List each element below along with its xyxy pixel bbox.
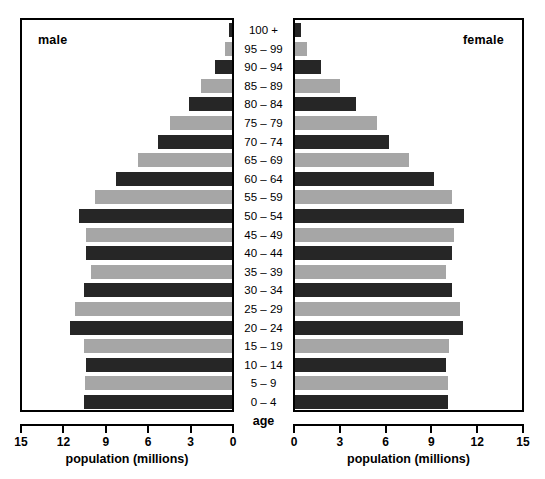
bar-male-40-44 bbox=[86, 246, 232, 260]
bar-female-85-89 bbox=[295, 79, 340, 93]
age-label: 55 – 59 bbox=[234, 190, 293, 204]
bar-female-20-24 bbox=[295, 321, 463, 335]
age-label: 70 – 74 bbox=[234, 135, 293, 149]
bar-male-10-14 bbox=[86, 358, 232, 372]
male-chart-panel bbox=[20, 18, 234, 412]
bar-male-65-69 bbox=[138, 153, 232, 167]
age-label: 65 – 69 bbox=[234, 153, 293, 167]
bar-female-50-54 bbox=[295, 209, 464, 223]
axis-tick bbox=[147, 424, 149, 433]
bar-female-80-84 bbox=[295, 97, 356, 111]
bar-female-0-4 bbox=[295, 395, 448, 409]
bar-female-75-79 bbox=[295, 116, 377, 130]
axis-tick-label: 15 bbox=[516, 435, 529, 449]
bar-male-100 bbox=[229, 23, 232, 37]
female-x-axis: 03691215 bbox=[293, 424, 524, 433]
bar-male-5-9 bbox=[85, 376, 232, 390]
population-pyramid-figure: male female 100 +95 – 9990 – 9485 – 8980… bbox=[0, 0, 545, 479]
bar-female-55-59 bbox=[295, 190, 452, 204]
bar-female-15-19 bbox=[295, 339, 449, 353]
axis-tick bbox=[430, 424, 432, 433]
bar-female-100 bbox=[295, 23, 301, 37]
axis-tick-label: 6 bbox=[382, 435, 389, 449]
male-panel-title: male bbox=[38, 33, 67, 47]
bar-male-45-49 bbox=[86, 228, 232, 242]
bar-male-55-59 bbox=[95, 190, 232, 204]
female-chart-panel bbox=[293, 18, 524, 412]
male-x-axis: 15129630 bbox=[20, 424, 234, 433]
axis-tick-label: 3 bbox=[336, 435, 343, 449]
axis-tick bbox=[105, 424, 107, 433]
bar-male-70-74 bbox=[158, 135, 232, 149]
bar-female-25-29 bbox=[295, 302, 460, 316]
age-label: 80 – 84 bbox=[234, 97, 293, 111]
age-label: 15 – 19 bbox=[234, 339, 293, 353]
male-bars-group bbox=[22, 20, 232, 410]
axis-tick-label: 0 bbox=[230, 435, 237, 449]
age-label: 50 – 54 bbox=[234, 209, 293, 223]
bar-female-60-64 bbox=[295, 172, 434, 186]
axis-tick-label: 6 bbox=[145, 435, 152, 449]
axis-tick bbox=[385, 424, 387, 433]
age-label: 60 – 64 bbox=[234, 172, 293, 186]
bar-female-5-9 bbox=[295, 376, 448, 390]
bar-female-95-99 bbox=[295, 42, 307, 56]
bar-female-90-94 bbox=[295, 60, 321, 74]
male-axis-line bbox=[20, 424, 234, 426]
age-label: 30 – 34 bbox=[234, 283, 293, 297]
age-label: 100 + bbox=[234, 23, 293, 37]
axis-tick bbox=[339, 424, 341, 433]
axis-tick bbox=[62, 424, 64, 433]
bar-female-30-34 bbox=[295, 283, 452, 297]
bar-female-65-69 bbox=[295, 153, 409, 167]
axis-tick bbox=[20, 424, 22, 433]
bar-male-50-54 bbox=[79, 209, 232, 223]
bar-male-80-84 bbox=[189, 97, 232, 111]
age-label-column: 100 +95 – 9990 – 9485 – 8980 – 8475 – 79… bbox=[234, 18, 293, 412]
age-label: 45 – 49 bbox=[234, 228, 293, 242]
bar-male-20-24 bbox=[70, 321, 232, 335]
age-label: 5 – 9 bbox=[234, 376, 293, 390]
axis-tick-label: 0 bbox=[291, 435, 298, 449]
bar-male-60-64 bbox=[116, 172, 232, 186]
bar-male-0-4 bbox=[84, 395, 232, 409]
axis-tick bbox=[190, 424, 192, 433]
bar-male-75-79 bbox=[170, 116, 232, 130]
bar-male-90-94 bbox=[215, 60, 232, 74]
axis-tick bbox=[476, 424, 478, 433]
axis-tick-label: 12 bbox=[57, 435, 70, 449]
bar-female-45-49 bbox=[295, 228, 454, 242]
age-axis-caption: age bbox=[234, 414, 293, 428]
age-label: 25 – 29 bbox=[234, 302, 293, 316]
age-label: 75 – 79 bbox=[234, 116, 293, 130]
bar-male-35-39 bbox=[91, 265, 232, 279]
age-label: 40 – 44 bbox=[234, 246, 293, 260]
axis-tick-label: 15 bbox=[14, 435, 27, 449]
age-label: 10 – 14 bbox=[234, 358, 293, 372]
bar-male-30-34 bbox=[84, 283, 232, 297]
female-panel-title: female bbox=[463, 33, 504, 47]
female-axis-caption: population (millions) bbox=[293, 452, 524, 466]
bar-female-10-14 bbox=[295, 358, 446, 372]
axis-tick bbox=[293, 424, 295, 433]
male-axis-caption: population (millions) bbox=[20, 452, 234, 466]
axis-tick bbox=[522, 424, 524, 433]
bar-female-35-39 bbox=[295, 265, 446, 279]
bar-female-40-44 bbox=[295, 246, 452, 260]
axis-tick-label: 9 bbox=[102, 435, 109, 449]
bar-male-25-29 bbox=[75, 302, 232, 316]
age-label: 35 – 39 bbox=[234, 265, 293, 279]
age-label: 95 – 99 bbox=[234, 42, 293, 56]
bar-male-85-89 bbox=[201, 79, 232, 93]
age-label: 20 – 24 bbox=[234, 321, 293, 335]
age-label: 90 – 94 bbox=[234, 60, 293, 74]
bar-male-95-99 bbox=[225, 42, 232, 56]
axis-tick bbox=[232, 424, 234, 433]
bar-female-70-74 bbox=[295, 135, 389, 149]
axis-tick-label: 12 bbox=[471, 435, 484, 449]
age-label: 0 – 4 bbox=[234, 395, 293, 409]
bar-male-15-19 bbox=[84, 339, 232, 353]
female-axis-line bbox=[293, 424, 524, 426]
age-label: 85 – 89 bbox=[234, 79, 293, 93]
axis-tick-label: 3 bbox=[187, 435, 194, 449]
